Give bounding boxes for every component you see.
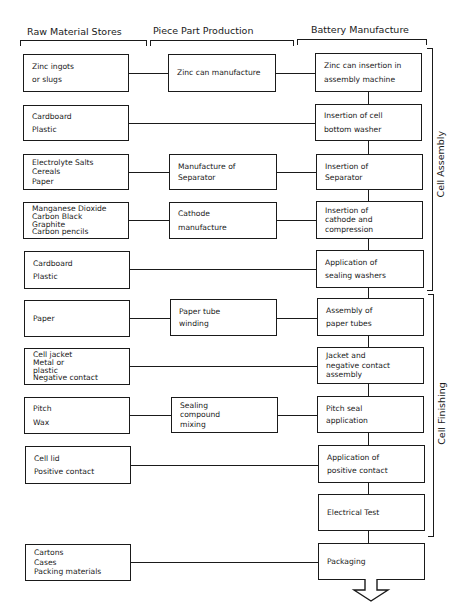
header-piece-part-production: Piece Part Production bbox=[153, 25, 253, 36]
raw-text: Cardboard bbox=[32, 112, 128, 121]
connector-row9 bbox=[131, 465, 318, 466]
battery-box-positive-contact: Application of positive contact bbox=[318, 445, 425, 483]
raw-box-zinc-ingots: Zinc ingots or slugs bbox=[23, 54, 129, 92]
part-text: compound bbox=[180, 410, 277, 419]
part-text: Cathode bbox=[178, 209, 276, 218]
part-text: Manufacture of bbox=[178, 162, 276, 171]
battery-text: application bbox=[326, 416, 423, 425]
part-box-sealing-compound-mixing: Sealing compound mixing bbox=[171, 397, 278, 433]
output-arrow-icon bbox=[350, 579, 392, 603]
raw-text: Positive contact bbox=[34, 467, 130, 476]
header-bracket-battery bbox=[297, 39, 427, 45]
battery-box-packaging: Packaging bbox=[318, 543, 425, 580]
part-text: Zinc can manufacture bbox=[177, 68, 275, 77]
raw-box-cell-jacket: Cell jacket Metal or plastic Negative co… bbox=[24, 348, 130, 385]
battery-text: Electrical Test bbox=[327, 508, 424, 517]
battery-text: Application of bbox=[325, 258, 423, 267]
part-box-zinc-can-manufacture: Zinc can manufacture bbox=[168, 54, 276, 92]
battery-box-insertion-bottom-washer: Insertion of cell bottom washer bbox=[315, 104, 422, 141]
connector-row1-a bbox=[129, 73, 168, 74]
connector-row6-b bbox=[277, 318, 317, 319]
raw-text: Pitch bbox=[33, 404, 129, 413]
battery-box-sealing-washers: Application of sealing washers bbox=[316, 250, 424, 288]
battery-text: compression bbox=[325, 225, 422, 234]
battery-text: Pitch seal bbox=[326, 404, 423, 413]
header-battery-manufacture: Battery Manufacture bbox=[311, 24, 409, 35]
part-text: Paper tube bbox=[179, 307, 276, 316]
battery-text: Insertion of bbox=[325, 206, 422, 215]
raw-text: Carbon pencils bbox=[32, 228, 128, 236]
connector-row11 bbox=[131, 562, 318, 563]
header-raw-material-stores: Raw Material Stores bbox=[27, 26, 122, 37]
raw-text: Wax bbox=[33, 418, 129, 427]
raw-text: Cartons bbox=[34, 548, 130, 557]
raw-text: Packing materials bbox=[34, 567, 130, 576]
battery-box-insertion-cathode: Insertion of cathode and compression bbox=[316, 201, 423, 239]
battery-text: positive contact bbox=[327, 466, 424, 475]
header-bracket-part bbox=[150, 40, 294, 46]
raw-text: Paper bbox=[33, 314, 129, 323]
raw-text: Electrolyte Salts bbox=[32, 158, 128, 167]
battery-text: Jacket and bbox=[326, 351, 423, 360]
battery-text: Packaging bbox=[327, 557, 424, 566]
raw-text: Paper bbox=[32, 177, 128, 186]
part-box-cathode-manufacture: Cathode manufacture bbox=[169, 202, 277, 239]
part-text: manufacture bbox=[178, 223, 276, 232]
raw-text: or slugs bbox=[32, 75, 128, 84]
raw-box-manganese: Manganese Dioxide Carbon Black Graphite … bbox=[23, 202, 129, 239]
connector-row3-a bbox=[129, 172, 169, 173]
battery-text: assembly machine bbox=[324, 75, 421, 84]
raw-box-cardboard-plastic-2: Cardboard Plastic bbox=[24, 251, 130, 289]
raw-box-paper: Paper bbox=[24, 300, 130, 337]
raw-box-pitch-wax: Pitch Wax bbox=[24, 397, 130, 434]
raw-text: Plastic bbox=[32, 125, 128, 134]
battery-box-jacket-negative-contact: Jacket and negative contact assembly bbox=[317, 347, 424, 384]
raw-box-cell-lid: Cell lid Positive contact bbox=[25, 446, 131, 484]
raw-text: Negative contact bbox=[33, 374, 129, 382]
part-text: Separator bbox=[178, 173, 276, 182]
raw-text: Cell lid bbox=[34, 454, 130, 463]
connector-row3-b bbox=[277, 172, 316, 173]
battery-text: Assembly of bbox=[326, 306, 423, 315]
battery-text: Insertion of bbox=[325, 162, 422, 171]
battery-text: Separator bbox=[325, 173, 422, 182]
battery-text: bottom washer bbox=[324, 125, 421, 134]
battery-box-insertion-separator: Insertion of Separator bbox=[316, 154, 423, 190]
battery-box-paper-tubes-assembly: Assembly of paper tubes bbox=[317, 298, 424, 336]
raw-box-cardboard-plastic-1: Cardboard Plastic bbox=[23, 105, 129, 141]
connector-row5 bbox=[130, 269, 316, 270]
label-cell-finishing: Cell Finishing bbox=[436, 379, 447, 449]
part-text: winding bbox=[179, 319, 276, 328]
connector-row4-b bbox=[277, 220, 316, 221]
battery-text: sealing washers bbox=[325, 271, 423, 280]
part-text: Sealing bbox=[180, 401, 277, 410]
connector-row6-a bbox=[130, 318, 170, 319]
connector-row8-b bbox=[277, 415, 317, 416]
battery-text: cathode and bbox=[325, 215, 422, 224]
connector-row4-a bbox=[129, 220, 169, 221]
raw-text: Cereals bbox=[32, 167, 128, 176]
raw-box-electrolyte: Electrolyte Salts Cereals Paper bbox=[23, 154, 129, 190]
connector-row8-a bbox=[130, 415, 171, 416]
part-box-separator-manufacture: Manufacture of Separator bbox=[169, 154, 277, 190]
part-text: mixing bbox=[180, 420, 277, 429]
bracket-cell-assembly bbox=[427, 48, 433, 291]
raw-text: Zinc ingots bbox=[32, 62, 128, 71]
battery-text: Application of bbox=[327, 453, 424, 462]
label-cell-assembly: Cell Assembly bbox=[435, 138, 446, 198]
battery-text: Insertion of cell bbox=[324, 111, 421, 120]
connector-row2 bbox=[129, 123, 315, 124]
raw-text: Cardboard bbox=[33, 259, 129, 268]
battery-text: Zinc can insertion in bbox=[324, 61, 421, 70]
part-box-paper-tube-winding: Paper tube winding bbox=[170, 299, 277, 336]
bracket-cell-finishing bbox=[428, 294, 434, 537]
connector-row7 bbox=[130, 366, 317, 367]
header-bracket-raw bbox=[20, 40, 147, 46]
battery-box-pitch-seal-application: Pitch seal application bbox=[317, 396, 424, 433]
battery-box-electrical-test: Electrical Test bbox=[318, 494, 425, 531]
battery-text: assembly bbox=[326, 370, 423, 379]
battery-box-zinc-can-insertion: Zinc can insertion in assembly machine bbox=[315, 53, 422, 92]
raw-box-cartons: Cartons Cases Packing materials bbox=[25, 544, 131, 581]
raw-text: Cases bbox=[34, 558, 130, 567]
raw-text: Plastic bbox=[33, 272, 129, 281]
